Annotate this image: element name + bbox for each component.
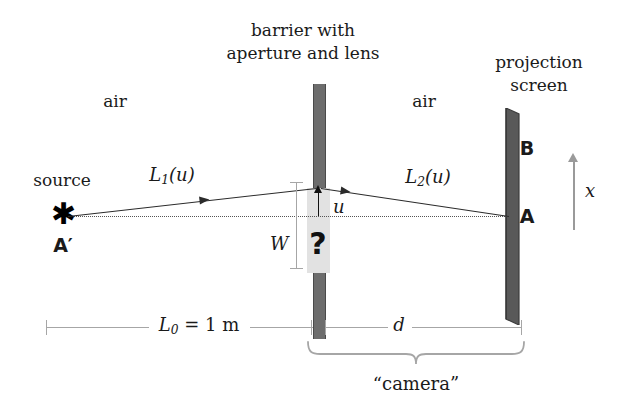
air-label-left: air — [103, 93, 127, 110]
incident-ray-L1 — [68, 188, 317, 217]
L0-value: = 1 m — [184, 314, 239, 335]
screen-point-A-label: A — [520, 207, 535, 226]
source-star-icon: ✱ — [51, 199, 76, 229]
L2-subscript: 2 — [417, 175, 425, 189]
L2-symbol: L — [405, 166, 417, 187]
transverse-axis-arrow-shaft — [573, 162, 575, 230]
screen-title-line1: projection — [495, 54, 583, 71]
camera-brace — [306, 340, 526, 366]
L0-dimension-line-left — [46, 327, 149, 328]
L0-symbol: L — [159, 314, 171, 335]
barrier-upper-segment — [313, 84, 326, 188]
L0-dimension-line-right — [250, 327, 313, 328]
unknown-question-mark: ? — [309, 229, 326, 259]
refracted-ray-label: L2(u) — [405, 168, 450, 189]
optical-axis-dotted-line — [67, 216, 509, 217]
aperture-coordinate-arrow-shaft — [318, 192, 319, 216]
incident-ray-arrowhead — [199, 196, 210, 205]
L1-symbol: L — [149, 164, 161, 185]
L2-argument: (u) — [425, 166, 451, 187]
L0-subscript: 0 — [171, 323, 179, 337]
aperture-coordinate-arrow-head — [314, 185, 322, 193]
d-dimension-line-right — [412, 327, 522, 328]
incident-ray-label: L1(u) — [149, 166, 194, 187]
aperture-coordinate-label: u — [333, 198, 345, 216]
refracted-ray-arrowhead — [340, 186, 351, 195]
barrier-title-line2: aperture and lens — [226, 45, 379, 62]
figure-canvas: barrier with aperture and lens projectio… — [0, 0, 626, 420]
L0-dimension-label: L0 = 1 m — [159, 316, 240, 337]
aperture-width-bracket-tick-bottom — [290, 268, 303, 269]
d-dimension-line-left — [325, 327, 388, 328]
d-dimension-label: d — [393, 316, 405, 334]
aperture-width-bracket-tick-top — [290, 182, 303, 183]
transverse-axis-label: x — [585, 182, 595, 200]
air-label-right: air — [412, 93, 436, 110]
L1-subscript: 1 — [161, 173, 169, 187]
source-label: source — [33, 172, 91, 189]
barrier-title-line1: barrier with — [251, 22, 355, 39]
transverse-axis-arrow-head — [568, 153, 578, 162]
source-point-label: A′ — [53, 236, 73, 255]
aperture-width-label: W — [270, 235, 289, 253]
screen-point-B-label: B — [520, 139, 534, 158]
camera-label: “camera” — [373, 375, 459, 393]
L1-argument: (u) — [169, 164, 195, 185]
aperture-width-bracket-bar — [296, 182, 297, 268]
L0-dimension-tick-right — [311, 320, 312, 335]
d-dimension-tick-right — [521, 320, 522, 335]
screen-title-line2: screen — [510, 77, 567, 94]
